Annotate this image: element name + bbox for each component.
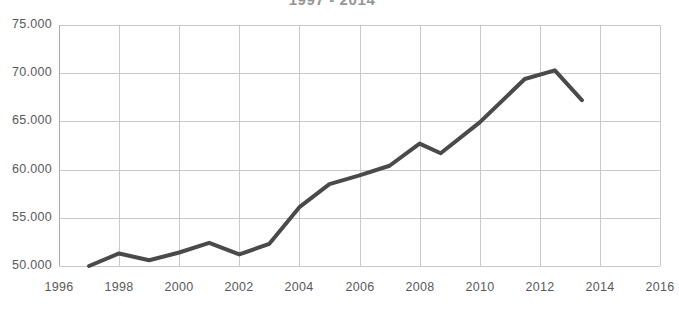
x-axis-tick-labels: 1996199820002002200420062008201020122014… bbox=[0, 280, 664, 300]
x-tick-label: 2004 bbox=[275, 280, 323, 294]
y-tick-label: 65.000 bbox=[0, 113, 52, 127]
x-tick-label: 2000 bbox=[155, 280, 203, 294]
y-tick-label: 75.000 bbox=[0, 17, 52, 31]
chart-title: 1997 - 2014 bbox=[0, 0, 664, 7]
y-tick-label: 55.000 bbox=[0, 210, 52, 224]
x-tick-label: 2016 bbox=[636, 280, 679, 294]
y-axis-tick-labels: 50.00055.00060.00065.00070.00075.000 bbox=[0, 25, 664, 266]
gridline-horizontal bbox=[59, 266, 660, 267]
y-tick-label: 50.000 bbox=[0, 258, 52, 272]
x-tick-label: 2010 bbox=[456, 280, 504, 294]
y-tick-label: 70.000 bbox=[0, 65, 52, 79]
x-tick-label: 2002 bbox=[215, 280, 263, 294]
x-tick-label: 2014 bbox=[576, 280, 624, 294]
x-tick-label: 2012 bbox=[516, 280, 564, 294]
x-tick-label: 2006 bbox=[336, 280, 384, 294]
x-tick-label: 2008 bbox=[396, 280, 444, 294]
y-tick-label: 60.000 bbox=[0, 162, 52, 176]
x-tick-label: 1996 bbox=[35, 280, 83, 294]
x-tick-label: 1998 bbox=[95, 280, 143, 294]
